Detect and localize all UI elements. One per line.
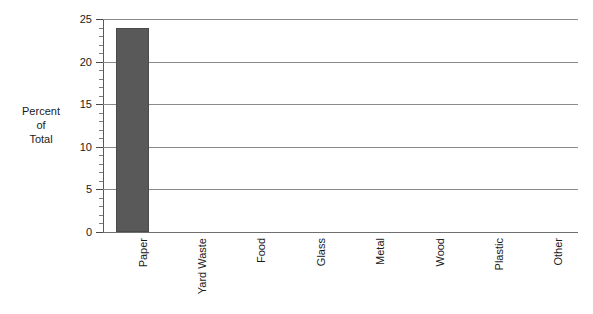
y-tick-minor <box>99 206 103 207</box>
y-tick-label: 15 <box>62 99 92 110</box>
y-tick-major <box>96 62 103 63</box>
bar-chart: Percent of Total 0510152025 PaperYard Wa… <box>0 0 593 314</box>
y-tick-minor <box>99 113 103 114</box>
y-tick-minor <box>99 172 103 173</box>
y-axis-title: Percent of Total <box>10 104 72 146</box>
y-tick-major <box>96 147 103 148</box>
y-tick-minor <box>99 130 103 131</box>
gridline <box>103 19 578 20</box>
y-tick-minor <box>99 121 103 122</box>
y-tick-minor <box>99 53 103 54</box>
y-tick-minor <box>99 164 103 165</box>
y-tick-major <box>96 19 103 20</box>
y-tick-label: 25 <box>62 14 92 25</box>
x-axis-baseline <box>103 232 578 233</box>
gridline <box>103 62 578 63</box>
y-tick-minor <box>99 28 103 29</box>
y-tick-minor <box>99 198 103 199</box>
x-axis-category-label: Metal <box>375 238 386 265</box>
gridline <box>103 189 578 190</box>
y-tick-major <box>96 104 103 105</box>
y-tick-label: 20 <box>62 57 92 68</box>
y-tick-label: 0 <box>62 227 92 238</box>
x-axis-category-label: Food <box>256 238 267 263</box>
x-axis-category-label: Paper <box>138 238 149 267</box>
y-tick-minor <box>99 79 103 80</box>
x-axis-category-label: Other <box>553 238 564 266</box>
x-axis-category-label: Plastic <box>494 238 505 270</box>
y-tick-minor <box>99 36 103 37</box>
y-tick-minor <box>99 138 103 139</box>
x-axis-category-label: Wood <box>435 238 446 267</box>
y-tick-minor <box>99 223 103 224</box>
y-tick-minor <box>99 181 103 182</box>
gridline <box>103 104 578 105</box>
y-tick-label: 10 <box>62 142 92 153</box>
y-tick-minor <box>99 96 103 97</box>
x-axis-category-label: Glass <box>316 238 327 266</box>
x-axis-category-label: Yard Waste <box>197 238 208 294</box>
bar[interactable] <box>116 28 149 232</box>
gridline <box>103 147 578 148</box>
y-tick-minor <box>99 215 103 216</box>
y-tick-minor <box>99 155 103 156</box>
y-tick-minor <box>99 87 103 88</box>
y-tick-minor <box>99 70 103 71</box>
y-tick-major <box>96 189 103 190</box>
y-tick-label: 5 <box>62 184 92 195</box>
y-tick-major <box>96 232 103 233</box>
plot-area <box>103 19 578 232</box>
y-tick-minor <box>99 45 103 46</box>
